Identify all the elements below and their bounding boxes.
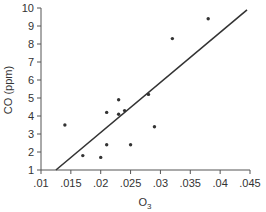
y-tick-label: 4: [28, 110, 34, 122]
data-point: [117, 113, 120, 116]
x-tick-label: .025: [120, 177, 141, 189]
data-point: [171, 37, 174, 40]
data-point: [81, 154, 84, 157]
data-point: [105, 143, 108, 146]
x-tick-label: .01: [33, 177, 48, 189]
y-axis-label: CO (ppm): [2, 66, 14, 114]
data-point: [129, 143, 132, 146]
data-point: [105, 111, 108, 114]
y-axis: 12345678910: [22, 2, 41, 176]
y-tick-label: 9: [28, 20, 34, 32]
y-tick-label: 5: [28, 92, 34, 104]
y-tick-label: 8: [28, 38, 34, 50]
regression-line: [56, 10, 247, 170]
x-tick-label: .045: [239, 177, 260, 189]
x-axis-label-subscript: 3: [147, 202, 152, 211]
data-point: [207, 17, 210, 20]
x-axis-label: O3: [138, 196, 152, 211]
data-point: [99, 156, 102, 159]
x-tick-label: .015: [60, 177, 81, 189]
y-tick-label: 6: [28, 74, 34, 86]
data-point: [123, 109, 126, 112]
y-tick-label: 1: [28, 164, 34, 176]
y-tick-label: 7: [28, 56, 34, 68]
data-point: [117, 98, 120, 101]
data-point: [63, 123, 66, 126]
data-point: [147, 93, 150, 96]
data-points: [63, 17, 210, 159]
data-point: [153, 125, 156, 128]
x-tick-label: .035: [180, 177, 201, 189]
y-tick-label: 3: [28, 128, 34, 140]
scatter-chart: 12345678910 .01.015.02.025.03.035.04.045…: [0, 0, 266, 212]
x-tick-label: .02: [93, 177, 108, 189]
x-axis: .01.015.02.025.03.035.04.045: [33, 170, 260, 189]
x-tick-label: .04: [212, 177, 227, 189]
y-tick-label: 10: [22, 2, 34, 14]
y-tick-label: 2: [28, 146, 34, 158]
x-tick-label: .03: [153, 177, 168, 189]
